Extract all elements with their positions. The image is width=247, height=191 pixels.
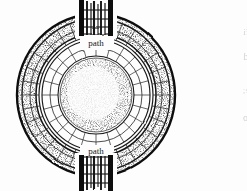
scanned-page: ia, an I str el ati Pa fi l the mills to… [0, 0, 247, 191]
circular-ring-plan-figure: path path [0, 0, 247, 191]
path-label-top: path [88, 38, 104, 48]
central-mound [60, 58, 132, 132]
path-label-bottom: path [88, 146, 104, 156]
